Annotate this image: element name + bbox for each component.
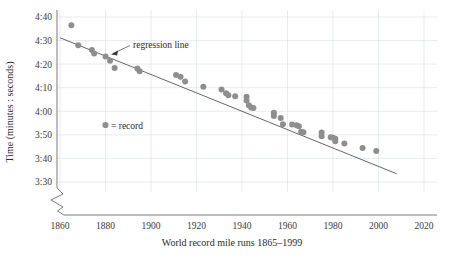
data-point	[373, 148, 379, 154]
legend-marker-icon	[102, 122, 108, 128]
data-point	[200, 84, 206, 90]
y-axis-tick-label: 3:40	[35, 154, 52, 164]
data-point	[68, 22, 74, 28]
x-axis-title: World record mile runs 1865–1999	[162, 237, 302, 248]
x-axis-tick-label: 2020	[415, 221, 434, 231]
data-point	[278, 115, 284, 121]
y-axis-tick-label: 3:30	[35, 177, 52, 187]
x-axis-tick-label: 1900	[142, 221, 161, 231]
y-axis-tick-label: 4:00	[35, 107, 52, 117]
data-point	[103, 54, 109, 60]
y-axis-tick-label: 4:20	[35, 60, 52, 70]
y-axis-tick-label: 4:30	[35, 36, 52, 46]
data-point	[137, 68, 143, 74]
data-point	[232, 93, 238, 99]
regression-line-label: regression line	[133, 40, 189, 50]
x-axis-tick-label: 1860	[51, 221, 70, 231]
data-point	[319, 133, 325, 139]
data-point	[91, 51, 97, 57]
data-point	[178, 74, 184, 80]
data-point	[75, 42, 81, 48]
y-axis-tick-label: 4:10	[35, 83, 52, 93]
data-point	[250, 105, 256, 111]
data-point	[182, 79, 188, 85]
data-point	[112, 65, 118, 71]
x-axis-tick-label: 2000	[369, 221, 388, 231]
data-point	[225, 92, 231, 98]
data-point	[296, 123, 302, 129]
data-point	[360, 145, 366, 151]
x-axis-tick-label: 1920	[187, 221, 206, 231]
x-axis-tick-label: 1940	[233, 221, 252, 231]
y-axis-tick-label: 3:50	[35, 130, 52, 140]
data-point	[341, 141, 347, 147]
data-point	[332, 138, 338, 144]
data-point	[300, 129, 306, 135]
legend-label: = record	[111, 121, 143, 131]
y-axis-title: Time (minutes : seconds)	[4, 61, 16, 162]
x-axis-tick-label: 1880	[96, 221, 115, 231]
data-point	[107, 58, 113, 64]
x-axis-tick-label: 1980	[324, 221, 343, 231]
chart-figure: 4:404:304:204:104:003:503:403:30 1860188…	[0, 0, 449, 262]
y-axis-tick-label: 4:40	[35, 12, 52, 22]
x-axis-tick-label: 1960	[278, 221, 297, 231]
data-point	[271, 113, 277, 119]
data-point	[280, 121, 286, 127]
scatter-plot-svg: 4:404:304:204:104:003:503:403:30 1860188…	[0, 0, 449, 262]
x-axis-tick-labels: 186018801900192019401960198020002020	[51, 221, 434, 231]
